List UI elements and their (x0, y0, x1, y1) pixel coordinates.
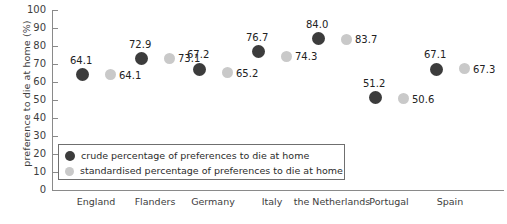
data-point-label: 67.1 (424, 50, 446, 60)
data-point-standardised (459, 63, 470, 74)
plot-area: 64.172.967.276.784.051.267.164.173.165.2… (0, 0, 507, 224)
data-point-label: 84.0 (306, 20, 328, 30)
data-point-label: 64.1 (70, 56, 92, 66)
data-point-label: 83.7 (355, 35, 377, 45)
x-axis-label-germany: Germany (191, 196, 235, 207)
data-point-label: 64.1 (119, 71, 141, 81)
x-axis-label-flanders: Flanders (135, 196, 176, 207)
legend-item-crude: crude percentage of preferences to die a… (65, 149, 309, 163)
chart-container: preference to die at home (%) 1009080706… (0, 0, 507, 224)
legend-swatch-standardised-icon (65, 167, 74, 176)
data-point-standardised (222, 67, 233, 78)
data-point-crude (312, 32, 325, 45)
legend-label-crude: crude percentage of preferences to die a… (81, 151, 309, 161)
data-point-label: 65.2 (236, 69, 258, 79)
chart-legend: crude percentage of preferences to die a… (58, 144, 345, 180)
data-point-crude (252, 45, 265, 58)
data-point-label: 76.7 (246, 33, 268, 43)
data-point-standardised (164, 53, 175, 64)
x-axis-label-the-netherlands: the Netherlands (294, 196, 371, 207)
data-point-label: 74.3 (295, 52, 317, 62)
data-point-crude (369, 91, 382, 104)
data-point-label: 51.2 (363, 79, 385, 89)
data-point-standardised (398, 93, 409, 104)
x-axis-label-italy: Italy (262, 196, 283, 207)
data-point-crude (430, 63, 443, 76)
legend-item-standardised: standardised percentage of preferences t… (65, 164, 343, 178)
data-point-standardised (341, 34, 352, 45)
x-axis-label-portugal: Portugal (369, 196, 408, 207)
legend-swatch-crude-icon (65, 151, 75, 161)
legend-label-standardised: standardised percentage of preferences t… (80, 166, 343, 176)
data-point-standardised (281, 51, 292, 62)
data-point-crude (193, 63, 206, 76)
x-axis-label-england: England (77, 196, 116, 207)
data-point-label: 50.6 (412, 95, 434, 105)
data-point-label: 72.9 (129, 40, 151, 50)
data-point-label: 73.1 (178, 54, 200, 64)
data-point-crude (135, 52, 148, 65)
data-point-standardised (105, 69, 116, 80)
x-axis-label-spain: Spain (437, 196, 464, 207)
data-point-crude (76, 68, 89, 81)
data-point-label: 67.3 (473, 65, 495, 75)
